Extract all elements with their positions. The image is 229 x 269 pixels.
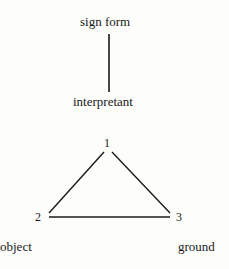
object-label: object [0, 240, 32, 254]
vertex-3-number: 3 [176, 211, 182, 223]
sign-form-label: sign form [80, 15, 130, 29]
triangle-edge-1-2 [49, 152, 104, 213]
ground-label: ground [178, 240, 215, 254]
diagram-lines [0, 0, 229, 269]
vertex-1-number: 1 [104, 137, 110, 149]
vertex-2-number: 2 [35, 211, 41, 223]
interpretant-label: interpretant [73, 95, 133, 109]
triangle-edge-1-3 [112, 152, 170, 213]
